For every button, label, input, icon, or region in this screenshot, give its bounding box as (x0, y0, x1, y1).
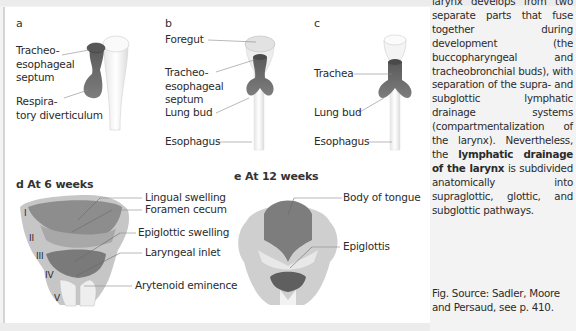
panel-a-letter: a (16, 17, 23, 30)
panel-e-title: e At 12 weeks (234, 170, 318, 183)
label-epiglottis: Epiglottis (343, 240, 390, 254)
figure-source-caption: Fig. Source: Sadler, Moore and Persaud, … (432, 286, 576, 314)
arch-numeral-4: IV (45, 269, 53, 283)
label-esophagus-b: Esophagus (165, 135, 220, 149)
label-esophagus-c: Esophagus (314, 135, 369, 149)
label-epiglottic-swelling: Epiglottic swelling (138, 226, 229, 240)
panel-d-title: d At 6 weeks (16, 178, 93, 191)
arch-numeral-1: I (24, 207, 26, 221)
body-paragraph: larynx develops from two separate parts … (432, 0, 573, 218)
label-foregut: Foregut (165, 33, 204, 47)
arch-numeral-3: III (36, 250, 43, 264)
label-tracheoesophageal-septum-b: Tracheo- esophageal septum (165, 66, 224, 107)
label-foramen-cecum: Foramen cecum (145, 203, 227, 217)
label-lung-bud-c: Lung bud (314, 106, 361, 120)
body-text-pre: larynx develops from two separate parts … (432, 0, 573, 160)
label-respiratory-diverticulum: Respira- tory diverticulum (16, 95, 103, 122)
arch-numeral-2: II (29, 232, 34, 246)
panel-e-illustration (238, 198, 342, 305)
label-laryngeal-inlet: Laryngeal inlet (145, 246, 220, 260)
label-body-of-tongue: Body of tongue (343, 191, 420, 205)
label-tracheoesophageal-septum-a: Tracheo- esophageal septum (16, 44, 75, 85)
label-arytenoid-eminence: Arytenoid eminence (135, 279, 237, 293)
panel-b-letter: b (165, 17, 172, 30)
arch-numeral-5: V (54, 292, 60, 306)
panel-c-illustration (354, 35, 412, 150)
panel-c-letter: c (314, 17, 320, 30)
label-lung-bud-b: Lung bud (165, 106, 212, 120)
label-trachea: Trachea (314, 67, 354, 81)
